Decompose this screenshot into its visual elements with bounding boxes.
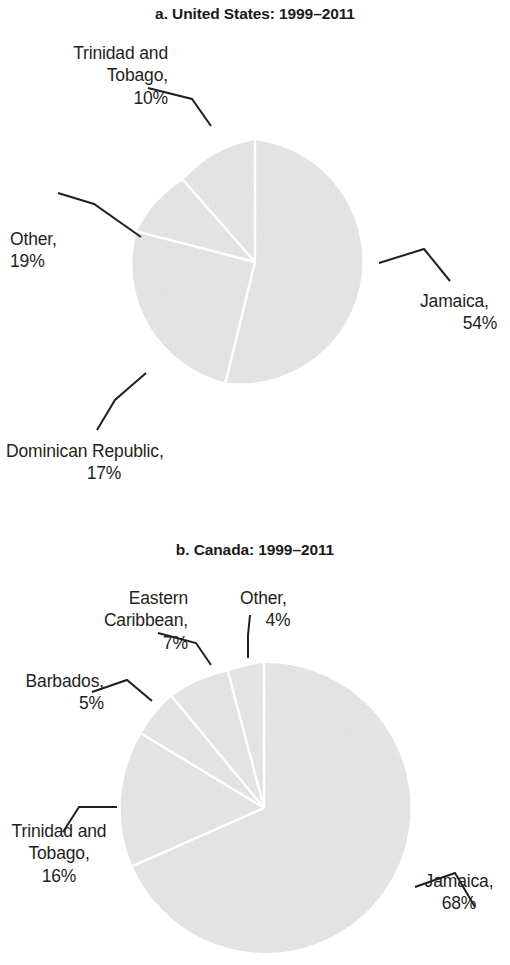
label-value: 68% [410,892,508,914]
label-line: Dominican Republic, [6,440,202,462]
label-value: 16% [0,865,120,887]
leader-line-jamaica [379,249,450,281]
label-line: Tobago, [0,842,120,864]
label-line: Jamaica, [410,870,508,892]
panel-a-slice-dividers [137,140,255,382]
label-value: 5% [0,692,104,714]
panel-b-slice-dividers [133,663,264,866]
label-eastern-caribbean: Eastern Caribbean, 7% [20,587,188,654]
label-line: Trinidad and [0,42,168,64]
leader-line-dominican [97,373,146,430]
label-barbados: Barbados, 5% [0,670,104,715]
panel-united-states: a. United States: 1999–2011 [0,0,510,515]
label-dominican-republic: Dominican Republic, 17% [6,440,202,485]
label-jamaica: Jamaica, 68% [410,870,508,915]
label-value: 17% [6,462,202,484]
label-trinidad-and-tobago: Trinidad and Tobago, 10% [0,42,168,109]
label-value: 4% [240,609,316,631]
label-line: Tobago, [0,64,168,86]
panel-b-leader-lines [63,615,475,907]
label-line: Jamaica, [420,290,510,312]
panel-b-title: b. Canada: 1999–2011 [0,541,510,559]
label-value: 10% [0,87,168,109]
label-line: Eastern [20,587,188,609]
label-line: Trinidad and [0,820,120,842]
label-jamaica: Jamaica, 54% [420,290,510,335]
label-line: Other, [10,228,130,250]
panel-canada: b. Canada: 1999–2011 [0,515,510,965]
label-value: 19% [10,250,130,272]
pie-chart-figure: a. United States: 1999–2011 [0,0,510,965]
label-other: Other, 4% [240,587,316,632]
panel-b-pie-slices [121,663,411,953]
label-line: Barbados, [0,670,104,692]
label-line: Other, [240,587,316,609]
label-other: Other, 19% [10,228,130,273]
label-trinidad-and-tobago: Trinidad and Tobago, 16% [0,820,120,887]
panel-a-pie-slices [132,140,362,383]
panel-a-title: a. United States: 1999–2011 [0,5,510,23]
label-value: 7% [20,632,188,654]
label-value: 54% [420,312,510,334]
label-line: Caribbean, [20,609,188,631]
